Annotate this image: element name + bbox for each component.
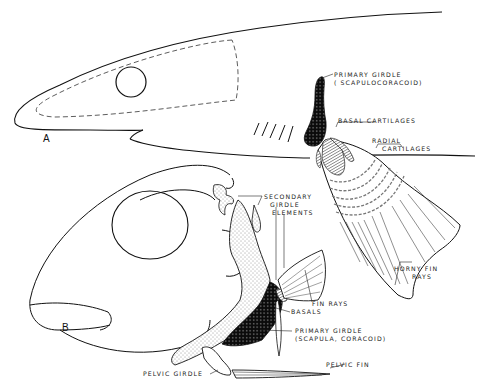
cranium-dashed-outline xyxy=(36,40,238,117)
bony-fish-head xyxy=(30,165,234,352)
label-fin-rays: FIN RAYS xyxy=(312,300,348,308)
label-horny-fin-rays: HORNY FIN RAYS xyxy=(394,265,438,281)
label-radial-cartilages: RADIAL CARTILAGES xyxy=(372,137,431,153)
panel-label-a: A xyxy=(43,133,50,144)
pectoral-fin-b xyxy=(278,250,325,301)
secondary-girdle-upper xyxy=(213,185,233,215)
label-basals: BASALS xyxy=(291,308,322,316)
label-primary-girdle-a: PRIMARY GIRDLE ( SCAPULOCORACOID) xyxy=(334,71,423,87)
label-pelvic-girdle: PELVIC GIRDLE xyxy=(143,370,203,378)
secondary-girdle-postcleithrum xyxy=(252,205,261,232)
panel-label-b: B xyxy=(62,322,69,333)
primary-girdle-a xyxy=(304,77,326,146)
bony-fish-eye xyxy=(112,191,188,259)
label-primary-girdle-b: PRIMARY GIRDLE (SCAPULA, CORACOID) xyxy=(295,327,386,343)
diagram-drawing xyxy=(0,0,485,390)
label-basal-cartilages: BASAL CARTILAGES xyxy=(338,117,416,125)
gill-slits xyxy=(254,122,293,142)
label-secondary-girdle-elements: SECONDARY GIRDLE ELEMENTS xyxy=(264,193,314,217)
figure-canvas: A B PRIMARY GIRDLE ( SCAPULOCORACOID) BA… xyxy=(0,0,485,390)
label-pelvic-fin: PELVIC FIN xyxy=(326,361,370,369)
shark-eye xyxy=(116,67,146,97)
